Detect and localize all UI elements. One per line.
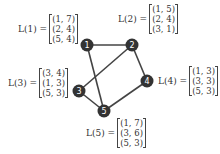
label-L1: L(1) = (1, 7) (2, 4) (5, 4)	[18, 14, 78, 44]
matrix-row: (3, 6)	[120, 128, 143, 138]
matrix-row: (5, 3)	[120, 138, 143, 148]
edge-2-3	[79, 45, 132, 91]
label-name: L(2) =	[118, 14, 147, 24]
label-L4: L(4) = (1, 3) (3, 3) (5, 3)	[158, 66, 218, 96]
label-name: L(4) =	[158, 76, 187, 86]
label-name: L(1) =	[18, 24, 47, 34]
label-name: L(3) =	[8, 78, 37, 88]
label-L3: L(3) = (3, 4) (1, 3) (5, 3)	[8, 68, 68, 98]
graph-edges	[79, 45, 147, 111]
matrix-row: (1, 5)	[152, 4, 175, 14]
matrix-row: (3, 3)	[192, 76, 215, 86]
matrix: (3, 4) (1, 3) (5, 3)	[39, 68, 68, 98]
matrix: (1, 7) (2, 4) (5, 4)	[49, 14, 78, 44]
matrix-row: (2, 4)	[52, 24, 75, 34]
node-label: 1	[84, 41, 89, 50]
edge-4-5	[104, 81, 147, 111]
matrix: (1, 7) (3, 6) (5, 3)	[117, 118, 146, 148]
matrix-row: (1, 7)	[52, 14, 75, 24]
matrix-row: (1, 3)	[192, 66, 215, 76]
label-name: L(5) =	[86, 128, 115, 138]
matrix-row: (5, 4)	[52, 34, 75, 44]
matrix-row: (5, 3)	[192, 86, 215, 96]
node-label: 5	[101, 107, 106, 116]
matrix-row: (1, 3)	[42, 78, 65, 88]
matrix-row: (3, 4)	[42, 68, 65, 78]
matrix: (1, 5) (2, 4) (3, 1)	[149, 4, 178, 34]
edge-1-5	[87, 45, 104, 111]
node-label: 4	[144, 77, 149, 86]
matrix-row: (1, 7)	[120, 118, 143, 128]
label-L2: L(2) = (1, 5) (2, 4) (3, 1)	[118, 4, 178, 34]
matrix-row: (2, 4)	[152, 14, 175, 24]
label-L5: L(5) = (1, 7) (3, 6) (5, 3)	[86, 118, 146, 148]
matrix-row: (3, 1)	[152, 24, 175, 34]
matrix: (1, 3) (3, 3) (5, 3)	[189, 66, 218, 96]
node-label: 2	[129, 41, 134, 50]
matrix-row: (5, 3)	[42, 88, 65, 98]
node-label: 3	[76, 87, 81, 96]
